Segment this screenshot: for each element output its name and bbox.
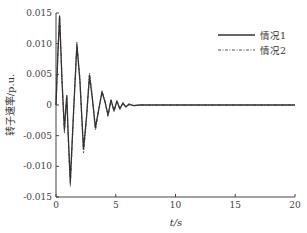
line-chart: 051015200.0150.0100.0050-0.005-0.010-0.0… [0,0,307,233]
series-group [56,16,295,187]
y-tick-label: 0 [46,100,52,110]
x-axis-label: t/s [170,217,183,228]
y-axis-label: 转子速率/p.u. [4,74,16,137]
y-tick-label: 0.015 [26,8,52,18]
legend-label: 情况1 [260,30,286,41]
legend: 情况1情况2 [218,30,286,56]
x-tick-label: 0 [53,200,59,210]
y-tick-label: 0.005 [26,69,52,79]
legend-label: 情况2 [260,45,286,56]
x-tick-label: 15 [230,200,242,210]
series-line [56,16,295,187]
y-tick-label: -0.015 [23,192,52,202]
y-tick-label: -0.010 [23,161,52,171]
y-tick-label: 0.010 [26,39,52,49]
x-tick-label: 5 [113,200,119,210]
x-tick-label: 10 [170,200,182,210]
y-tick-label: -0.005 [23,131,52,141]
series-line [56,16,295,182]
x-tick-label: 20 [289,200,301,210]
